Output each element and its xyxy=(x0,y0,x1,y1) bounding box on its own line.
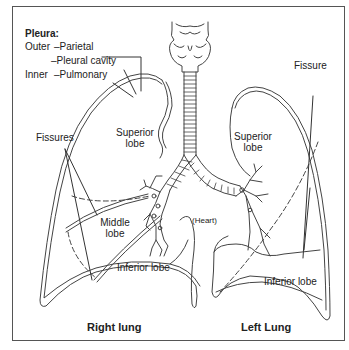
right-middle-lobe-label: Middle lobe xyxy=(94,217,136,239)
left-lung-title: Left Lung xyxy=(241,322,291,333)
right-superior-lobe-label: Superior lobe xyxy=(112,127,158,149)
fissures-leader-lines xyxy=(65,149,97,280)
pleura-title: Pleura: xyxy=(25,28,59,39)
heart-label: (Heart) xyxy=(192,215,217,226)
right-inferior-lobe-label: Inferior lobe xyxy=(117,262,170,273)
heart-border xyxy=(170,240,188,264)
right-lung-title: Right lung xyxy=(87,322,141,333)
pleura-inner-label: Inner xyxy=(25,69,48,80)
left-lung-fissure xyxy=(220,142,318,292)
left-inferior-lobe-label: Inferior lobe xyxy=(264,276,317,287)
fissures-label: Fissures xyxy=(36,132,74,143)
pleura-cavity-label: –Pleural cavity xyxy=(51,55,116,66)
pleura-parietal-label: –Parietal xyxy=(54,41,93,52)
left-superior-lobe-label: Superior lobe xyxy=(230,131,276,153)
left-bronchial-tree xyxy=(236,164,270,256)
lungs-illustration xyxy=(0,0,349,350)
fissure-leader-line-left xyxy=(303,96,313,258)
pleura-outer-label: Outer xyxy=(25,41,50,52)
fissure-label: Fissure xyxy=(294,60,327,71)
right-bronchial-tree xyxy=(140,176,170,256)
larynx-thyroid-icon xyxy=(170,22,211,72)
pleura-pulmonary-label: –Pulmonary xyxy=(54,69,107,80)
trachea xyxy=(160,72,240,196)
